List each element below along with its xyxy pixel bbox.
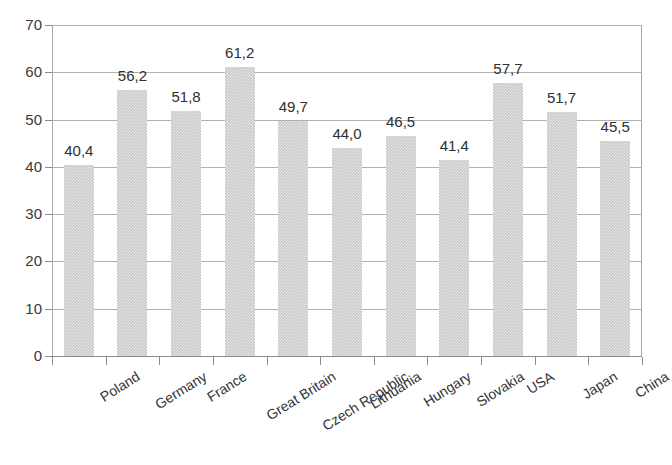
bar[interactable] [225, 67, 255, 356]
bar-value-label: 44,0 [317, 126, 377, 141]
y-axis-tick [45, 167, 52, 168]
y-axis-tick [45, 72, 52, 73]
y-axis-tick [45, 261, 52, 262]
y-axis-tick-label: 60 [4, 64, 42, 79]
x-axis-tick [320, 357, 321, 365]
y-axis-tick [45, 214, 52, 215]
x-axis-category-label: France [205, 369, 249, 404]
x-axis-tick [481, 357, 482, 365]
x-axis-category-label: USA [524, 369, 556, 396]
bar[interactable] [332, 148, 362, 356]
bar-value-label: 56,2 [102, 68, 162, 83]
y-axis-tick-label: 40 [4, 159, 42, 174]
bar[interactable] [278, 121, 308, 356]
x-axis-tick [52, 357, 53, 365]
plot-right-border [641, 25, 642, 356]
bar-value-label: 40,4 [49, 143, 109, 158]
bar-value-label: 61,2 [210, 45, 270, 60]
bar[interactable] [600, 141, 630, 356]
x-axis-tick [535, 357, 536, 365]
x-axis-category-label: Poland [97, 369, 141, 404]
x-axis-category-label: Japan [579, 369, 619, 401]
x-axis-tick [642, 357, 643, 365]
bar[interactable] [439, 160, 469, 356]
bar[interactable] [117, 90, 147, 356]
bar-value-label: 45,5 [585, 119, 645, 134]
y-axis-tick [45, 356, 52, 357]
x-axis-tick [427, 357, 428, 365]
x-axis-tick [267, 357, 268, 365]
y-axis-tick [45, 25, 52, 26]
x-axis-tick [588, 357, 589, 365]
x-axis-tick [374, 357, 375, 365]
x-axis-tick [159, 357, 160, 365]
y-axis-tick [45, 309, 52, 310]
bar[interactable] [493, 83, 523, 356]
bar[interactable] [386, 136, 416, 356]
bar-value-label: 51,8 [156, 89, 216, 104]
y-axis-tick-label: 0 [4, 348, 42, 363]
y-axis-tick-label: 50 [4, 112, 42, 127]
x-axis-category-label: Germany [153, 369, 209, 411]
y-axis-tick-label: 70 [4, 17, 42, 32]
x-axis-category-label: Slovakia [474, 369, 526, 409]
y-axis-tick-label: 30 [4, 206, 42, 221]
y-axis-tick [45, 120, 52, 121]
bar-value-label: 46,5 [371, 114, 431, 129]
bar[interactable] [547, 112, 577, 356]
x-axis-category-label: China [633, 369, 671, 400]
x-axis-tick [213, 357, 214, 365]
bar[interactable] [171, 111, 201, 356]
x-axis-line [52, 356, 642, 357]
bar[interactable] [64, 165, 94, 356]
x-axis-category-label: Hungary [421, 369, 473, 409]
bar-value-label: 41,4 [424, 138, 484, 153]
y-axis-tick-label: 10 [4, 301, 42, 316]
bar-value-label: 49,7 [263, 99, 323, 114]
bar-value-label: 57,7 [478, 61, 538, 76]
y-axis-tick-label: 20 [4, 253, 42, 268]
bar-value-label: 51,7 [532, 90, 592, 105]
y-axis-labels: 706050403020100 [0, 0, 42, 465]
gridline [52, 25, 642, 26]
x-axis-tick [106, 357, 107, 365]
